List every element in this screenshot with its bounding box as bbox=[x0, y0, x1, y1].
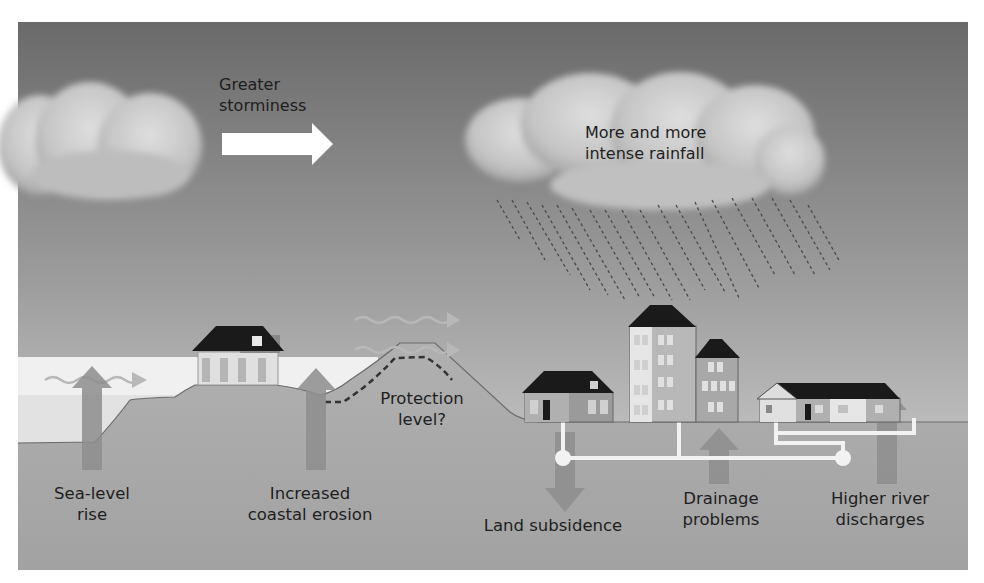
label-land-subsidence: Land subsidence bbox=[478, 515, 628, 536]
pipe-junction bbox=[835, 450, 851, 466]
label-sea-level-rise: Sea-level rise bbox=[42, 483, 142, 525]
pipe-junction bbox=[555, 450, 571, 466]
label-higher-river-discharges: Higher river discharges bbox=[820, 488, 940, 530]
label-drainage-problems: Drainage problems bbox=[671, 488, 771, 530]
label-protection-level: Protection level? bbox=[372, 388, 472, 430]
cloud-left bbox=[0, 82, 202, 200]
label-intense-rainfall: More and more intense rainfall bbox=[585, 122, 706, 164]
house-long bbox=[757, 383, 900, 422]
label-coastal-erosion: Increased coastal erosion bbox=[245, 483, 375, 525]
label-greater-storminess: Greater storminess bbox=[219, 74, 306, 116]
